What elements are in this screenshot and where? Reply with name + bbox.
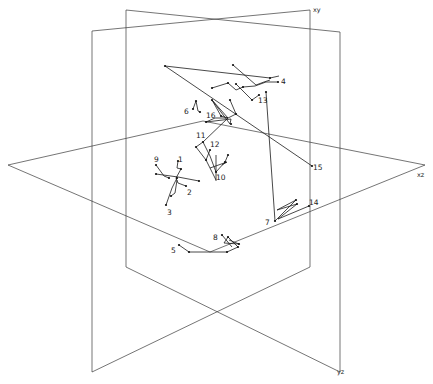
track-label-8: 8 <box>213 233 218 242</box>
track-label-12: 12 <box>210 140 220 149</box>
track-label-1: 1 <box>178 155 183 164</box>
track-label-4: 4 <box>281 77 286 86</box>
track-label-11: 11 <box>196 131 206 140</box>
diagram-canvas: xy xz yz 1 2 3 4 5 6 7 8 9 10 11 12 13 1… <box>0 0 433 384</box>
track-label-7: 7 <box>265 218 270 227</box>
track-label-14: 14 <box>309 198 319 207</box>
track-label-10: 10 <box>216 173 226 182</box>
yz-plane-label: yz <box>337 368 345 376</box>
track-label-5: 5 <box>171 246 176 255</box>
track-label-6: 6 <box>184 107 189 116</box>
track-label-13: 13 <box>258 96 268 105</box>
xz-plane-label: xz <box>417 171 425 179</box>
track-label-3: 3 <box>167 208 172 217</box>
xy-plane-label: xy <box>313 6 321 14</box>
yz-plane-front <box>92 10 310 372</box>
track-label-15: 15 <box>313 163 323 172</box>
track-label-9: 9 <box>154 155 159 164</box>
track-label-16: 16 <box>206 111 216 120</box>
track-label-2: 2 <box>187 188 192 197</box>
